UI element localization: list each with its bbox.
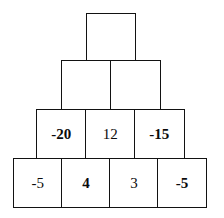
pyramid-cell-r3c2[interactable]: 12 [85,109,136,159]
pyramid-cell-r3c3[interactable]: -15 [134,109,185,159]
pyramid-cell-r4c3[interactable]: 3 [109,158,159,208]
pyramid-cell-r4c2[interactable]: 4 [61,158,111,208]
pyramid-cell-r2c2[interactable] [110,60,161,110]
pyramid-cell-r1c1[interactable] [86,13,136,61]
pyramid-cell-value: 3 [130,176,138,191]
pyramid-cell-r4c4[interactable]: -5 [157,158,207,208]
pyramid-cell-r2c1[interactable] [61,60,112,110]
pyramid-cell-value: -20 [51,127,71,142]
pyramid-row-4: -5 4 3 -5 [13,158,207,208]
pyramid-cell-value: 4 [82,176,90,191]
pyramid-cell-value: -5 [176,176,189,191]
pyramid-cell-value: -15 [149,127,169,142]
number-pyramid-figure: -20 12 -15 -5 4 3 -5 [0,0,224,218]
pyramid-row-2 [61,60,161,110]
pyramid-cell-value: -5 [32,176,45,191]
pyramid-row-1 [86,13,136,61]
pyramid-cell-r4c1[interactable]: -5 [13,158,63,208]
pyramid-cell-value: 12 [103,127,118,142]
pyramid-cell-r3c1[interactable]: -20 [36,109,87,159]
pyramid-row-3: -20 12 -15 [36,109,185,159]
